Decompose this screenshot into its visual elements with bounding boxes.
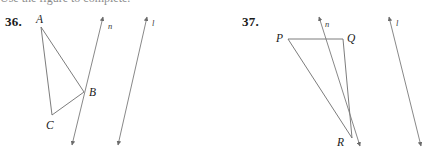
line-label-n-figure-36: n bbox=[108, 22, 112, 31]
point-label-p: P bbox=[276, 33, 283, 45]
line-l-figure-36 bbox=[118, 17, 147, 145]
point-label-b: B bbox=[89, 87, 96, 99]
cropped-header-text: Use the figure to complete. bbox=[0, 0, 130, 6]
line-label-l-figure-36: l bbox=[152, 19, 154, 28]
line-n-figure-36 bbox=[72, 17, 103, 145]
point-label-q: Q bbox=[347, 33, 355, 45]
point-label-a: A bbox=[36, 14, 43, 26]
worksheet-page: Use the figure to complete. 36. 37. A B … bbox=[0, 0, 436, 160]
cropped-header-bleed: Use the figure to complete. bbox=[0, 0, 436, 7]
problem-number-36: 36. bbox=[5, 14, 22, 30]
line-label-l-figure-37: l bbox=[396, 19, 398, 28]
figure-36 bbox=[41, 17, 147, 145]
line-l-figure-37 bbox=[389, 17, 421, 146]
line-label-n-figure-37: n bbox=[325, 20, 329, 29]
triangle-pqr bbox=[288, 39, 352, 138]
triangle-abc bbox=[41, 27, 84, 115]
geometry-figures bbox=[0, 0, 436, 160]
point-label-c: C bbox=[46, 120, 54, 132]
point-label-r: R bbox=[337, 137, 344, 149]
problem-number-37: 37. bbox=[242, 14, 259, 30]
